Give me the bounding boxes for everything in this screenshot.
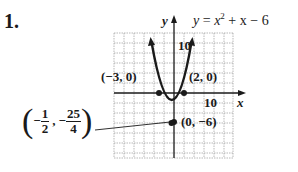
right-intercept-label: (2, 0) [189, 69, 217, 85]
y-intercept-label: (0, −6) [181, 114, 217, 130]
y-axis-label: y [162, 13, 168, 29]
x-axis-label: x [237, 95, 244, 111]
equation-label: y = x2 + x − 6 [193, 11, 269, 29]
vertex-label: ( − 12 , − 254 ) [22, 104, 92, 138]
left-intercept-label: (−3, 0) [101, 69, 137, 85]
y-tick-label: 10 [178, 38, 191, 54]
point-vertex [169, 120, 175, 126]
point-neg3-0 [156, 90, 162, 96]
x-tick-label: 10 [204, 95, 217, 111]
point-2-0 [181, 90, 187, 96]
